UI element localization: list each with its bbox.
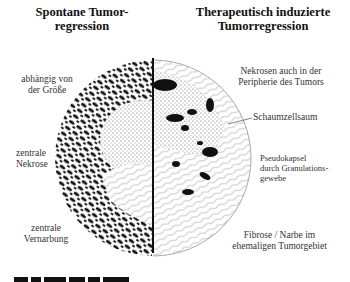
label-periphery-necrosis: Nekrosen auch in der Peripherie des Tumo… [220,66,342,88]
label-foam-cell-border: Schaumzellsaum [253,112,348,123]
center-divider-line [152,58,154,253]
label-fibrosis-scar: Fibrose / Narbe im ehemaligen Tumorgebie… [212,230,347,252]
cropped-caption [14,264,174,272]
label-central-scarring: zentrale Vernarbung [14,223,78,245]
label-pseudocapsule: Pseudokapsel durch Granulations- gewebe [260,153,350,183]
label-size-dependent: abhängig von der Größe [12,74,82,96]
label-central-necrosis: zentrale Nekrose [16,148,76,170]
